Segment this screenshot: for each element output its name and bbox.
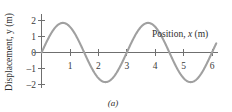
x-tick-label-6: 6 — [210, 61, 215, 71]
y-tick-label-minus-2: –2 — [26, 80, 37, 90]
x-axis-title: Position, x (m) — [152, 29, 208, 40]
x-axis-group: 1 2 3 4 5 6 — [33, 49, 218, 71]
figure-caption: (a) — [108, 98, 119, 108]
x-axis-title-prefix: Position, — [152, 29, 188, 39]
y-axis-title-prefix: Displacement, — [4, 34, 14, 91]
y-tick-label-minus-1: –1 — [26, 64, 37, 74]
x-tick-label-2: 2 — [96, 61, 101, 71]
x-tick-label-1: 1 — [68, 61, 73, 71]
x-axis-title-suffix: (m) — [192, 29, 208, 40]
wave-figure: 2 1 0 –1 –2 1 2 3 4 5 6 Positio — [0, 0, 232, 112]
x-tick-label-5: 5 — [181, 61, 186, 71]
x-tick-label-4: 4 — [153, 61, 158, 71]
y-tick-label-2: 2 — [31, 16, 36, 26]
y-axis-title: Displacement, y (m) — [4, 13, 15, 91]
y-axis-title-suffix: (m) — [4, 13, 15, 29]
y-tick-label-1: 1 — [31, 32, 36, 42]
x-tick-label-3: 3 — [124, 61, 129, 71]
plot-canvas: 2 1 0 –1 –2 1 2 3 4 5 6 Positio — [0, 0, 232, 112]
